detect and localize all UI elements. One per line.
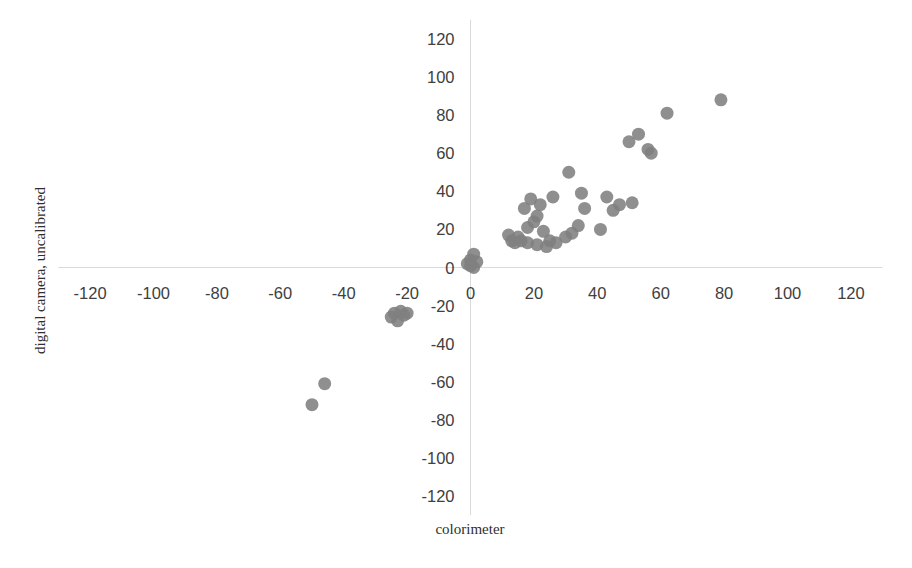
y-tick-label: -80 [431, 411, 455, 429]
x-tick-label: 100 [774, 284, 802, 302]
data-point [306, 398, 319, 411]
y-tick-label: 60 [436, 144, 454, 162]
x-tick-label: 20 [525, 284, 543, 302]
x-tick-label: -20 [395, 284, 419, 302]
data-point [531, 210, 544, 223]
plot-area: -120-100-80-60-40-20020406080100120 -120… [0, 0, 912, 568]
data-point [661, 107, 674, 120]
x-tick-label: -60 [268, 284, 292, 302]
y-tick-label: 100 [427, 68, 455, 86]
x-tick-label: 0 [466, 284, 475, 302]
data-point [600, 191, 613, 204]
x-tick-label: 60 [652, 284, 670, 302]
scatter-chart: -120-100-80-60-40-20020406080100120 -120… [0, 0, 912, 568]
y-tick-label: -20 [431, 297, 455, 315]
y-tick-label: 80 [436, 106, 454, 124]
data-point-group [306, 93, 728, 411]
data-point [534, 198, 547, 211]
data-point [645, 147, 658, 160]
y-tick-label: -120 [421, 487, 454, 505]
x-tick-label: -80 [205, 284, 229, 302]
data-point [546, 191, 559, 204]
data-point [575, 187, 588, 200]
x-axis-title: colorimeter [380, 521, 560, 538]
y-tick-label: -100 [421, 449, 454, 467]
y-tick-label: 120 [427, 30, 455, 48]
data-point [578, 202, 591, 215]
data-point [626, 196, 639, 209]
data-point [572, 219, 585, 232]
x-tick-label: 40 [588, 284, 606, 302]
y-tick-label: -60 [431, 373, 455, 391]
data-point [714, 93, 727, 106]
data-point [613, 198, 626, 211]
x-tick-label: -120 [74, 284, 107, 302]
data-point [318, 377, 331, 390]
data-point [470, 255, 483, 268]
data-point [632, 128, 645, 141]
y-tick-label: 20 [436, 220, 454, 238]
x-tick-label: 120 [837, 284, 865, 302]
data-point [401, 307, 414, 320]
y-tick-label: -40 [431, 335, 455, 353]
y-tick-label: 0 [445, 259, 454, 277]
data-point [594, 223, 607, 236]
x-tick-label: 80 [715, 284, 733, 302]
data-point [562, 166, 575, 179]
x-tick-label: -40 [332, 284, 356, 302]
x-tick-label: -100 [137, 284, 170, 302]
y-tick-label: 40 [436, 182, 454, 200]
x-axis-tick-labels: -120-100-80-60-40-20020406080100120 [74, 284, 865, 302]
y-axis-title: digital camera, uncalibrated [32, 151, 49, 391]
